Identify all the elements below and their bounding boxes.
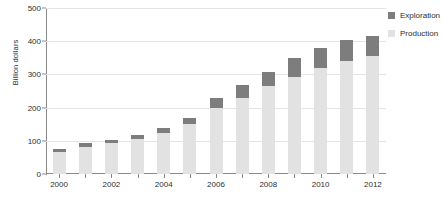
x-tick-mark xyxy=(85,174,86,178)
bar-segment-production[interactable] xyxy=(131,139,144,174)
bar-segment-exploration[interactable] xyxy=(236,85,249,98)
legend-swatch-icon xyxy=(388,30,395,37)
chart-legend: ExplorationProduction xyxy=(388,11,440,47)
y-axis-title: Billion dollars xyxy=(11,23,20,103)
bar-segment-exploration[interactable] xyxy=(314,48,327,69)
bar-column[interactable] xyxy=(183,8,196,174)
bar-segment-exploration[interactable] xyxy=(288,58,301,77)
bar-segment-production[interactable] xyxy=(210,108,223,174)
bar-column[interactable] xyxy=(314,8,327,174)
x-tick-mark xyxy=(321,174,322,178)
bar-column[interactable] xyxy=(236,8,249,174)
bar-group xyxy=(46,8,386,174)
bar-segment-exploration[interactable] xyxy=(366,36,379,56)
bar-segment-production[interactable] xyxy=(366,56,379,174)
bar-column[interactable] xyxy=(157,8,170,174)
bar-segment-production[interactable] xyxy=(79,147,92,174)
x-tick-label: 2010 xyxy=(312,180,330,189)
legend-item[interactable]: Exploration xyxy=(388,11,440,20)
legend-item[interactable]: Production xyxy=(388,29,440,38)
x-tick-label: 2008 xyxy=(259,180,277,189)
plot-area: 0100200300400500 20002002200420062008201… xyxy=(46,8,386,174)
bar-segment-exploration[interactable] xyxy=(210,98,223,107)
bar-segment-production[interactable] xyxy=(340,61,353,174)
x-tick-label: 2002 xyxy=(102,180,120,189)
bar-segment-production[interactable] xyxy=(262,86,275,174)
bar-segment-exploration[interactable] xyxy=(340,40,353,61)
bar-segment-exploration[interactable] xyxy=(79,143,92,147)
legend-label: Exploration xyxy=(400,11,440,20)
bar-column[interactable] xyxy=(262,8,275,174)
bar-segment-production[interactable] xyxy=(236,98,249,174)
chart-container: Billion dollars 0100200300400500 2000200… xyxy=(0,0,443,201)
bar-segment-production[interactable] xyxy=(157,133,170,175)
bar-column[interactable] xyxy=(340,8,353,174)
x-tick-mark xyxy=(59,174,60,178)
x-tick-mark xyxy=(164,174,165,178)
bar-segment-exploration[interactable] xyxy=(262,72,275,86)
bar-column[interactable] xyxy=(105,8,118,174)
bar-column[interactable] xyxy=(210,8,223,174)
bar-segment-exploration[interactable] xyxy=(105,140,118,144)
x-tick-mark xyxy=(294,174,295,178)
bar-segment-exploration[interactable] xyxy=(157,128,170,133)
x-tick-label: 2012 xyxy=(364,180,382,189)
x-tick-label: 2000 xyxy=(50,180,68,189)
bar-segment-exploration[interactable] xyxy=(53,149,66,152)
x-tick-mark xyxy=(242,174,243,178)
bar-segment-exploration[interactable] xyxy=(183,118,196,125)
x-tick-mark xyxy=(111,174,112,178)
x-tick-mark xyxy=(373,174,374,178)
x-tick-mark xyxy=(190,174,191,178)
bar-segment-production[interactable] xyxy=(183,124,196,174)
legend-label: Production xyxy=(400,29,438,38)
bar-segment-production[interactable] xyxy=(288,77,301,174)
x-tick-label: 2006 xyxy=(207,180,225,189)
bar-segment-exploration[interactable] xyxy=(131,135,144,139)
x-tick-mark xyxy=(216,174,217,178)
bar-column[interactable] xyxy=(366,8,379,174)
legend-swatch-icon xyxy=(388,12,395,19)
bar-column[interactable] xyxy=(53,8,66,174)
x-tick-mark xyxy=(347,174,348,178)
bar-segment-production[interactable] xyxy=(314,68,327,174)
bar-segment-production[interactable] xyxy=(105,143,118,174)
x-tick-mark xyxy=(138,174,139,178)
bar-column[interactable] xyxy=(131,8,144,174)
x-tick-mark xyxy=(268,174,269,178)
x-tick-label: 2004 xyxy=(155,180,173,189)
bar-column[interactable] xyxy=(79,8,92,174)
bar-column[interactable] xyxy=(288,8,301,174)
bar-segment-production[interactable] xyxy=(53,152,66,174)
